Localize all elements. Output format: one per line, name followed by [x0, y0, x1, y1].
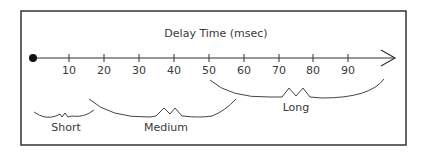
axis-title: Delay Time (msec): [164, 27, 267, 40]
tick-label: 70: [272, 64, 286, 77]
short-range-label: Short: [51, 121, 81, 134]
tick-label: 80: [306, 64, 320, 77]
short-range-brace: [34, 110, 94, 117]
tick-label: 10: [62, 64, 76, 77]
long-range-label: Long: [283, 101, 310, 114]
tick-label: 20: [97, 64, 111, 77]
tick-label: 30: [132, 64, 146, 77]
tick-label: 60: [237, 64, 251, 77]
tick-labels: 10 20 30 40 50 60 70 80 90: [62, 64, 355, 77]
medium-range-brace: [89, 99, 236, 117]
delay-time-diagram: Delay Time (msec) 10 20 30 40 50 60 70 8…: [0, 0, 422, 154]
tick-label: 90: [341, 64, 355, 77]
origin-dot: [29, 54, 37, 62]
medium-range-label: Medium: [144, 121, 188, 134]
long-range-brace: [210, 79, 384, 98]
tick-label: 50: [202, 64, 216, 77]
tick-label: 40: [167, 64, 181, 77]
